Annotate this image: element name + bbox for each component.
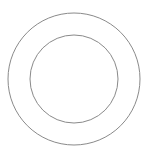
inner-circle xyxy=(30,35,118,123)
concentric-circles-diagram xyxy=(0,0,147,158)
outer-circle xyxy=(8,13,140,145)
